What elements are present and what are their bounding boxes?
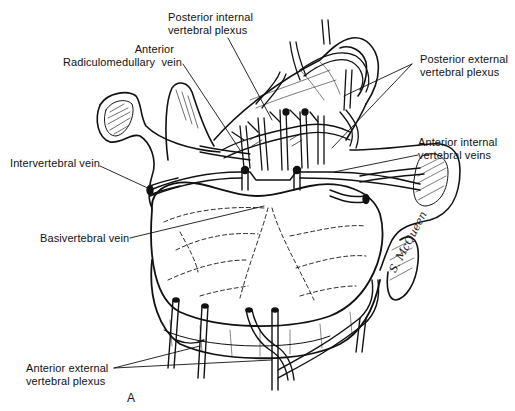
posterior-internal-plexus (200, 109, 350, 170)
vertebral-body (151, 182, 383, 358)
anterior-external-plexus-veins (168, 280, 379, 390)
label-posterior-internal-plexus: Posterior internal vertebral plexus (168, 11, 253, 37)
label-line: Posterior internal (168, 11, 253, 24)
panel-letter: A (127, 391, 135, 405)
label-line: Intervertebral vein (10, 157, 100, 170)
label-basivertebral-vein: Basivertebral vein (40, 232, 129, 245)
label-anterior-internal-veins: Anterior internal vertebral veins (418, 136, 497, 162)
label-line: Anterior external (26, 362, 108, 375)
label-intervertebral-vein: Intervertebral vein (10, 157, 100, 170)
label-line: Radiculomedullary vein (56, 56, 182, 69)
basivertebral-channels (164, 208, 366, 300)
label-line: vertebral plexus (26, 375, 108, 388)
label-line: Anterior (56, 43, 182, 56)
label-line: vertebral veins (418, 149, 497, 162)
anatomical-figure: Posterior internal vertebral plexus Ante… (0, 0, 515, 411)
leader-intervertebral (100, 166, 152, 190)
leader-posterior-internal (228, 38, 272, 120)
label-posterior-external-plexus: Posterior external vertebral plexus (420, 53, 508, 79)
label-anterior-external-plexus: Anterior external vertebral plexus (26, 362, 108, 388)
leader-anterior-external-2 (114, 360, 272, 368)
leader-lines (100, 38, 418, 368)
label-line: vertebral plexus (420, 66, 508, 79)
label-line: Basivertebral vein (40, 232, 129, 245)
label-line: Posterior external (420, 53, 508, 66)
label-line: Anterior internal (418, 136, 497, 149)
left-articular-process (166, 83, 214, 160)
label-line: vertebral plexus (168, 24, 253, 37)
right-transverse-process (350, 144, 460, 300)
label-anterior-radiculomedullary-vein: Anterior Radiculomedullary vein (56, 43, 182, 69)
